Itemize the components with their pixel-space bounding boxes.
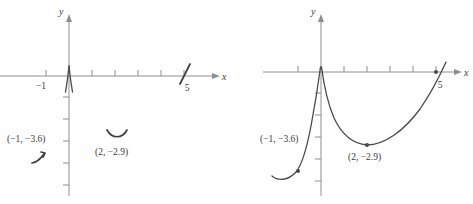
y-axis-label: y xyxy=(58,6,64,17)
y-axis-label: y xyxy=(310,6,316,17)
curve-left-branch xyxy=(272,67,321,179)
curve-fragment-near-point-a xyxy=(32,154,44,163)
x-tick-label-5: 5 xyxy=(185,83,190,93)
slope-fragment-near-x-5 xyxy=(180,64,190,84)
point-label-a: (−1, −3.6) xyxy=(260,134,298,145)
y-axis-arrowhead xyxy=(66,14,72,22)
x-tick-label-5: 5 xyxy=(438,80,443,90)
marked-point-x-intercept xyxy=(434,70,438,74)
y-axis-arrowhead xyxy=(318,14,324,22)
point-label-b: (2, −2.9) xyxy=(348,152,381,163)
two-panel-graph-figure: x y −1 5 xyxy=(0,0,473,204)
x-axis-arrowhead xyxy=(212,73,220,79)
point-label-b: (2, −2.9) xyxy=(95,147,128,158)
partial-graph-panel: x y −1 5 xyxy=(0,0,237,204)
curve-fragment-near-point-b xyxy=(107,130,127,137)
marked-point-b xyxy=(365,143,369,147)
origin-cusp-left-branch xyxy=(66,66,70,92)
complete-graph-panel: x y (− xyxy=(236,0,473,204)
marked-point-a xyxy=(296,169,300,173)
x-axis-arrowhead xyxy=(454,69,462,75)
curve-right-branch xyxy=(322,62,447,145)
x-axis-label: x xyxy=(463,67,469,78)
point-label-a: (−1, −3.6) xyxy=(7,134,45,145)
origin-cusp-right-branch xyxy=(69,66,73,92)
x-tick-label--1: −1 xyxy=(36,81,46,91)
x-axis-label: x xyxy=(221,71,227,82)
